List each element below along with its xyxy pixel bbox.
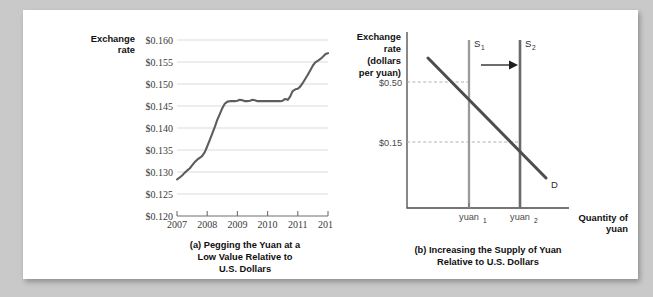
caption-line: U.S. Dollars <box>219 264 271 274</box>
xtick-label: 2010 <box>258 219 278 230</box>
shift-arrow-icon <box>481 61 518 70</box>
chart-b-demand-label: D <box>551 179 558 190</box>
caption-line: Low Value Relative to <box>197 252 292 262</box>
xlabel-line: Quantity of <box>579 212 629 223</box>
ylabel-line: per yuan) <box>359 67 401 78</box>
chart-b-demand-curve <box>428 58 546 178</box>
caption-line: (b) Increasing the Supply of Yuan <box>414 245 561 255</box>
xtick-label-yuan2: yuan <box>510 212 530 222</box>
xtick-label: 2007 <box>167 219 187 230</box>
xtick-label: 2011 <box>288 219 308 230</box>
xtick-label: 2009 <box>227 219 247 230</box>
ytick-label: $0.15 <box>379 138 402 148</box>
ytick-label: $0.150 <box>146 79 174 90</box>
chart-b-xticks <box>469 203 520 208</box>
xlabel-line: yuan <box>606 223 628 234</box>
ylabel-line: rate <box>384 43 401 54</box>
chart-a-caption: (a) Pegging the Yuan at a Low Value Rela… <box>190 240 301 274</box>
ytick-label: $0.145 <box>146 101 174 112</box>
chart-b-supply-demand-diagram: Exchange rate (dollars per yuan) $0.50 $… <box>333 10 638 279</box>
chart-b-supply-1-label: S <box>474 38 480 49</box>
xtick-subscript-2: 2 <box>534 217 538 224</box>
xtick-label: 2012 <box>318 219 333 230</box>
chart-b-ylabel: Exchange rate (dollars per yuan) <box>357 31 401 78</box>
figure-panel: Exchange rate $0.160 $0.155 $0.150 $0.14… <box>23 10 638 279</box>
chart-b-xtick-labels: yuan 1 yuan 2 <box>459 212 538 224</box>
ytick-label: $0.125 <box>146 189 174 200</box>
caption-line: Relative to U.S. Dollars <box>437 257 539 267</box>
xtick-label: 2008 <box>197 219 217 230</box>
ytick-label: $0.50 <box>379 78 402 88</box>
ytick-label: $0.155 <box>146 57 174 68</box>
chart-a-data-curve <box>177 53 328 179</box>
ytick-label: $0.130 <box>146 167 174 178</box>
chart-b-ytick-labels: $0.50 $0.15 <box>379 78 402 148</box>
chart-a-line-chart: Exchange rate $0.160 $0.155 $0.150 $0.14… <box>23 10 333 279</box>
chart-a-ytick-labels: $0.160 $0.155 $0.150 $0.145 $0.140 $0.13… <box>146 35 174 222</box>
chart-b-supply-1-subscript: 1 <box>481 44 485 51</box>
chart-b-caption: (b) Increasing the Supply of Yuan Relati… <box>414 245 561 267</box>
ytick-label: $0.135 <box>146 145 174 156</box>
xtick-subscript-1: 1 <box>483 217 487 224</box>
chart-a-xtick-labels: 2007 2008 2009 2010 2011 2012 <box>167 219 333 230</box>
chart-a-xticks <box>177 211 328 216</box>
chart-a-ylabel-line-2: rate <box>118 44 135 55</box>
ytick-label: $0.160 <box>146 35 174 46</box>
chart-b-xlabel: Quantity of yuan <box>579 212 629 234</box>
ylabel-line: Exchange <box>357 31 401 42</box>
chart-a-gridlines <box>177 40 328 194</box>
xtick-label-yuan1: yuan <box>459 212 479 222</box>
ylabel-line: (dollars <box>367 55 401 66</box>
chart-b-supply-2-label: S <box>525 38 531 49</box>
chart-a-ylabel-line-1: Exchange <box>91 33 135 44</box>
ytick-label: $0.140 <box>146 123 174 134</box>
chart-b-supply-2-subscript: 2 <box>532 44 536 51</box>
caption-line: (a) Pegging the Yuan at a <box>190 240 301 250</box>
